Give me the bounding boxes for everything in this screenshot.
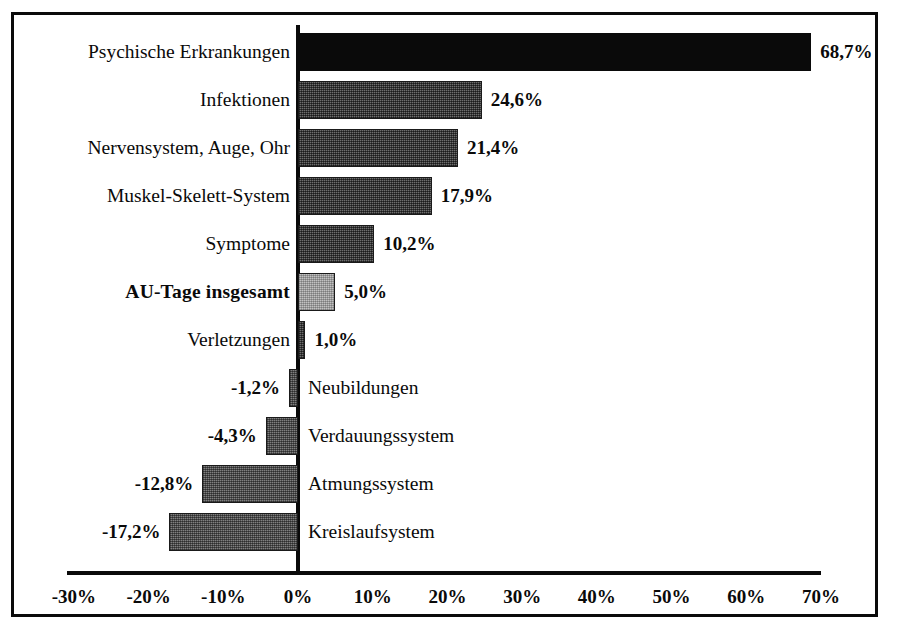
x-axis-tick-label: 40% bbox=[578, 587, 616, 606]
value-label: 17,9% bbox=[441, 186, 493, 205]
x-axis-tick-label: 30% bbox=[503, 587, 541, 606]
value-label: 10,2% bbox=[383, 234, 435, 253]
bar[interactable] bbox=[298, 177, 432, 215]
chart-plot-area: Psychische Erkrankungen68,7%Infektionen2… bbox=[14, 15, 875, 614]
category-label: Verletzungen bbox=[187, 330, 290, 350]
x-axis-tick-label: 60% bbox=[727, 587, 765, 606]
bar[interactable] bbox=[289, 369, 298, 407]
category-label: Nervensystem, Auge, Ohr bbox=[87, 138, 290, 158]
x-axis-line bbox=[67, 571, 821, 575]
value-label: 5,0% bbox=[344, 282, 387, 301]
bar[interactable] bbox=[169, 513, 298, 551]
value-label: -12,8% bbox=[135, 474, 194, 493]
value-label: -4,3% bbox=[208, 426, 257, 445]
value-label: 24,6% bbox=[491, 90, 543, 109]
bar[interactable] bbox=[202, 465, 298, 503]
value-label: 68,7% bbox=[820, 42, 872, 61]
category-label: Atmungssystem bbox=[308, 474, 434, 494]
x-axis-tick-label: 20% bbox=[428, 587, 466, 606]
x-axis-tick-label: 70% bbox=[802, 587, 840, 606]
x-axis-tick-label: -10% bbox=[201, 587, 245, 606]
category-label: Infektionen bbox=[200, 90, 290, 110]
value-label: -1,2% bbox=[231, 378, 280, 397]
bar[interactable] bbox=[298, 81, 482, 119]
bar[interactable] bbox=[266, 417, 298, 455]
category-label: Kreislaufsystem bbox=[308, 522, 435, 542]
category-label: Psychische Erkrankungen bbox=[88, 42, 290, 62]
chart-frame: Psychische Erkrankungen68,7%Infektionen2… bbox=[11, 12, 878, 617]
bar[interactable] bbox=[298, 321, 305, 359]
x-axis-tick-label: -30% bbox=[52, 587, 96, 606]
bar[interactable] bbox=[298, 273, 335, 311]
value-label: 21,4% bbox=[467, 138, 519, 157]
category-label: Muskel-Skelett-System bbox=[107, 186, 290, 206]
value-label: 1,0% bbox=[314, 330, 357, 349]
category-label: Neubildungen bbox=[308, 378, 418, 398]
x-axis-tick-label: 0% bbox=[284, 587, 313, 606]
category-label: Symptome bbox=[205, 234, 290, 254]
value-label: -17,2% bbox=[102, 522, 161, 541]
x-axis-tick-label: 50% bbox=[653, 587, 691, 606]
bar[interactable] bbox=[298, 225, 374, 263]
x-axis-tick-label: 10% bbox=[354, 587, 392, 606]
bar[interactable] bbox=[298, 33, 811, 71]
category-label: Verdauungssystem bbox=[308, 426, 454, 446]
bar[interactable] bbox=[298, 129, 458, 167]
x-axis-tick-label: -20% bbox=[126, 587, 170, 606]
category-label: AU-Tage insgesamt bbox=[125, 282, 290, 302]
